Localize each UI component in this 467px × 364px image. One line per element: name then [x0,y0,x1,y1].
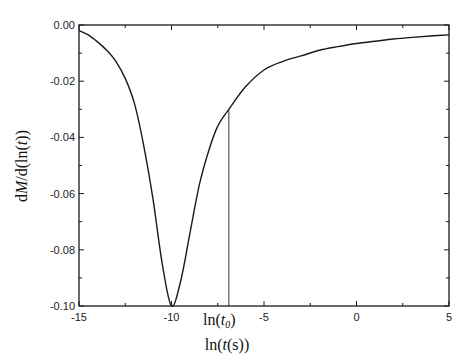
x-tick-label: 5 [446,311,452,323]
y-axis-title: dM/d(ln(t)) [13,130,31,202]
data-line [79,31,449,307]
t0-label: ln(t0) [203,311,236,330]
y-tick-label: -0.02 [50,75,75,87]
x-tick-label: 0 [353,311,359,323]
y-tick-label: 0.00 [54,19,75,31]
plot-frame [79,25,449,306]
x-axis-title: ln(t(s)) [205,336,249,354]
x-tick-label: -10 [164,311,180,323]
y-tick-label: -0.06 [50,188,75,200]
y-axis: 0.00-0.02-0.04-0.06-0.08-0.10 [50,19,449,312]
x-tick-label: -15 [71,311,87,323]
x-tick-label: -5 [259,311,269,323]
chart: 0.00-0.02-0.04-0.06-0.08-0.10 -15-10-505… [0,0,467,364]
plot-border [79,25,449,306]
x-axis: -15-10-505 [71,25,452,323]
y-tick-label: -0.04 [50,131,75,143]
y-tick-label: -0.08 [50,244,75,256]
